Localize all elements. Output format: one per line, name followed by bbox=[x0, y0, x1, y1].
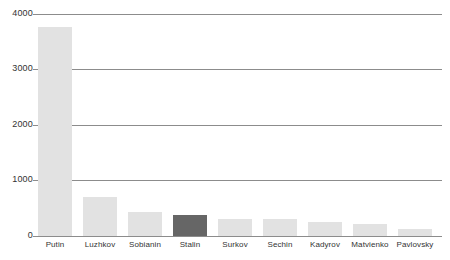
ytick-label-0: 0 bbox=[5, 231, 33, 240]
bar-sobianin[interactable] bbox=[128, 212, 162, 236]
ytick-3000: 3000 bbox=[0, 64, 33, 73]
ytick-label-3000: 3000 bbox=[5, 64, 33, 73]
ytick-label-2000: 2000 bbox=[5, 120, 33, 129]
bar-matvienko[interactable] bbox=[353, 224, 387, 236]
ytick-label-1000: 1000 bbox=[5, 175, 33, 184]
gridline-1000 bbox=[38, 180, 442, 181]
xlabel-pavlovsky: Pavlovsky bbox=[385, 240, 445, 250]
bar-sechin[interactable] bbox=[263, 219, 297, 236]
gridline-3000 bbox=[38, 69, 442, 70]
ytick-2000: 2000 bbox=[0, 120, 33, 129]
bar-chart: 4000 3000 2000 1000 0 Putin bbox=[0, 0, 450, 260]
bar-pavlovsky[interactable] bbox=[398, 229, 432, 236]
ytick-mark-4000 bbox=[33, 14, 38, 15]
bar-surkov[interactable] bbox=[218, 219, 252, 236]
ytick-1000: 1000 bbox=[0, 175, 33, 184]
ytick-0: 0 bbox=[0, 231, 33, 240]
bar-stalin[interactable] bbox=[173, 215, 207, 236]
ytick-label-4000: 4000 bbox=[5, 9, 33, 18]
gridline-2000 bbox=[38, 125, 442, 126]
ytick-4000: 4000 bbox=[0, 9, 33, 18]
bar-luzhkov[interactable] bbox=[83, 197, 117, 236]
gridline-4000 bbox=[38, 14, 442, 15]
bar-putin[interactable] bbox=[38, 27, 72, 236]
plot-area: 4000 3000 2000 1000 0 Putin bbox=[0, 0, 450, 260]
bar-kadyrov[interactable] bbox=[308, 222, 342, 236]
axis-baseline bbox=[33, 236, 442, 237]
